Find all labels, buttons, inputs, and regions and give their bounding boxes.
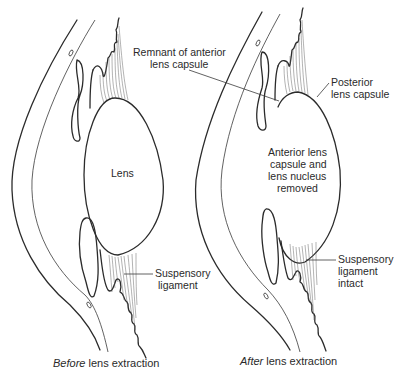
- caption-before-italic: Before: [53, 357, 85, 369]
- panel-before: Lens Suspensory ligament Before lens ext…: [12, 18, 211, 369]
- posterior-label-line2: lens capsule: [331, 88, 390, 100]
- vessel-mark-top: [68, 49, 74, 56]
- upper-ligament-fibers: [100, 26, 128, 103]
- lower-ciliary-lobe: [262, 209, 279, 284]
- diagram-canvas: Lens Suspensory ligament Before lens ext…: [0, 0, 400, 374]
- lower-ligament-fibers: [109, 253, 137, 330]
- suspensory-label-line1: Suspensory: [155, 267, 211, 279]
- removed-label-line3: lens nucleus: [268, 170, 326, 182]
- suspensory-label-line2: ligament: [158, 279, 198, 291]
- remnant-label-line2: lens capsule: [150, 58, 209, 70]
- suspensory-label-line1: Suspensory: [338, 253, 394, 265]
- remnant-pointer-line: [189, 70, 279, 101]
- upper-iris-inner: [275, 66, 278, 100]
- remnant-label-line1: Remnant of anterior: [133, 46, 226, 58]
- caption-before: Before lens extraction: [53, 357, 159, 369]
- lower-ciliary-body: [100, 250, 146, 358]
- vessel-mark-top: [255, 39, 261, 46]
- upper-iris-inner: [90, 70, 93, 108]
- lower-ligament-fibers: [290, 242, 317, 320]
- vessel-mark-bottom: [263, 292, 269, 299]
- caption-after-italic: After: [239, 355, 265, 367]
- upper-ciliary-lobe: [257, 52, 269, 130]
- upper-ligament-fibers: [284, 20, 308, 95]
- removed-label-line1: Anterior lens: [268, 146, 327, 158]
- panel-after: Anterior lens capsule and lens nucleus r…: [133, 8, 394, 367]
- lens-label: Lens: [111, 167, 134, 179]
- caption-after: After lens extraction: [239, 355, 337, 367]
- suspensory-label-line3: intact: [338, 277, 363, 289]
- posterior-label-line1: Posterior: [331, 76, 374, 88]
- posterior-pointer-line: [317, 83, 329, 97]
- caption-before-rest: lens extraction: [85, 357, 159, 369]
- lower-ciliary-lobe: [79, 218, 98, 297]
- upper-ciliary-lobe: [72, 60, 83, 141]
- outer-wall-inner-curve: [32, 20, 108, 352]
- removed-label-line2: capsule and: [270, 158, 327, 170]
- removed-label-line4: removed: [277, 182, 318, 194]
- suspensory-label-line2: ligament: [338, 265, 378, 277]
- outer-wall-outer-curve: [12, 20, 100, 350]
- caption-after-rest: lens extraction: [263, 355, 337, 367]
